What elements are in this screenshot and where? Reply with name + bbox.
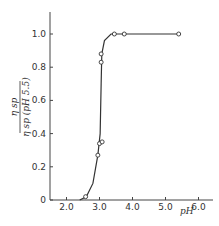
y-tick-label: 0.4: [32, 129, 47, 139]
x-tick-label: 4.0: [125, 202, 140, 212]
data-point: [96, 153, 100, 157]
y-label-numerator: η sp: [9, 97, 19, 116]
y-label-denominator: η sp (pH 5.5): [21, 77, 31, 137]
y-axis-label: η sp η sp (pH 5.5): [9, 77, 31, 137]
data-point: [177, 32, 181, 36]
y-tick-label: 0.2: [32, 162, 46, 172]
data-points: [84, 32, 181, 199]
data-point: [84, 195, 88, 199]
x-tick-label: 2.0: [59, 202, 74, 212]
y-axis: 00.20.40.60.81.0: [32, 12, 53, 205]
chart: 00.20.40.60.81.0 2.03.04.05.06.0 η sp η …: [0, 0, 219, 226]
fitted-curve: [80, 34, 179, 200]
y-tick-label: 0.6: [32, 95, 47, 105]
data-point: [99, 52, 103, 56]
x-axis-label: pH: [180, 206, 194, 216]
y-tick-label: 0: [40, 195, 46, 205]
y-tick-label: 0.8: [32, 62, 47, 72]
x-tick-label: 5.0: [158, 202, 173, 212]
y-tick-label: 1.0: [32, 29, 47, 39]
data-point: [122, 32, 126, 36]
data-point: [99, 60, 103, 64]
x-tick-label: 3.0: [92, 202, 107, 212]
data-point: [112, 32, 116, 36]
data-point: [100, 140, 104, 144]
